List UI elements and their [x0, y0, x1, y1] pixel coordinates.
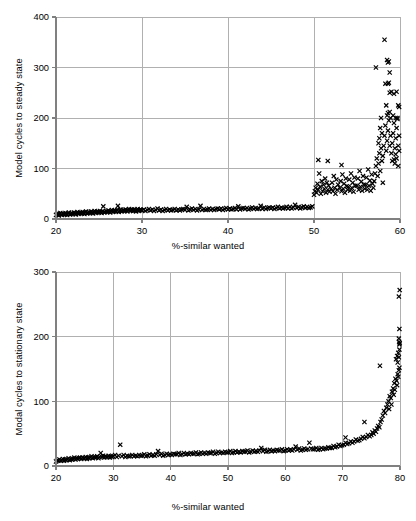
x-tick-label: 70 [337, 473, 347, 483]
y-tick-label: 300 [33, 267, 49, 277]
scatter-plot-top: 01002003004002030405060 [0, 0, 416, 260]
x-tick-label: 30 [137, 226, 147, 236]
y-tick-label: 0 [44, 461, 49, 471]
x-tick-label: 50 [223, 473, 233, 483]
x-axis-label-top: %-similar wanted [0, 241, 416, 251]
chart-panel-bottom: Modal cycles to stationary state 0100200… [0, 260, 416, 521]
y-tick-label: 200 [33, 332, 49, 342]
x-tick-label: 30 [108, 473, 118, 483]
chart-panel-top: Model cycles to steady state 01002003004… [0, 0, 416, 260]
x-tick-label: 20 [51, 473, 61, 483]
x-tick-label: 60 [395, 226, 405, 236]
scatter-plot-bottom: 010020030020304050607080 [0, 260, 416, 521]
y-tick-label: 0 [44, 214, 49, 224]
x-tick-label: 40 [223, 226, 233, 236]
figure-two-scatter-plots: Model cycles to steady state 01002003004… [0, 0, 416, 521]
y-tick-label: 100 [33, 164, 49, 174]
x-tick-label: 60 [280, 473, 290, 483]
x-tick-label: 20 [51, 226, 61, 236]
y-tick-label: 100 [33, 397, 49, 407]
y-tick-label: 400 [33, 12, 49, 22]
y-tick-label: 300 [33, 63, 49, 73]
x-tick-label: 50 [309, 226, 319, 236]
y-tick-label: 200 [33, 113, 49, 123]
x-tick-label: 80 [395, 473, 405, 483]
y-axis-label-top: Model cycles to steady state [14, 58, 24, 178]
x-tick-label: 40 [165, 473, 175, 483]
y-axis-label-bottom: Modal cycles to stationary state [14, 303, 24, 436]
x-axis-label-bottom: %-similar wanted [0, 502, 416, 512]
